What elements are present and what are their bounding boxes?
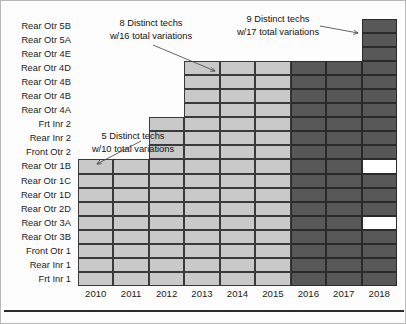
arrow-to-2018-column xyxy=(320,26,358,33)
annotation-arrows xyxy=(1,1,406,324)
arrow-to-2010-column xyxy=(97,141,141,164)
arrow-to-2013-column xyxy=(153,45,215,71)
chart-frame: Rear Otr 5BRear Otr 5ARear Otr 4ERear Ot… xyxy=(0,0,406,324)
